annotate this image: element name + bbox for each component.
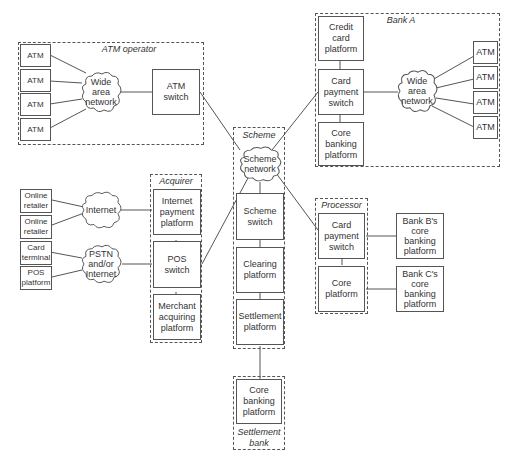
scheme-network-cloud[interactable]: Scheme network bbox=[236, 145, 284, 183]
pos-platform-box[interactable]: POS platform bbox=[20, 266, 52, 290]
core-banking-platform-box[interactable]: Core banking platform bbox=[318, 122, 364, 166]
group-label: ATM operator bbox=[79, 44, 179, 54]
cloud-label: Scheme network bbox=[243, 154, 276, 174]
settlement-core-banking-box[interactable]: Core banking platform bbox=[236, 379, 282, 424]
atm-switch-box[interactable]: ATM switch bbox=[152, 69, 200, 115]
card-payment-switch-box[interactable]: Card payment switch bbox=[318, 69, 364, 115]
cloud-label: Wide area network bbox=[401, 76, 433, 106]
wide-area-network-cloud[interactable]: Wide area network bbox=[78, 70, 124, 114]
merchant-acquiring-platform-box[interactable]: Merchant acquiring platform bbox=[153, 294, 201, 340]
bank-b-core-banking-box[interactable]: Bank B's core banking platform bbox=[396, 213, 444, 259]
atm-box[interactable]: ATM bbox=[20, 44, 51, 67]
atm-box[interactable]: ATM bbox=[20, 69, 51, 92]
group-label: Acquirer bbox=[151, 176, 201, 186]
bank-c-core-banking-box[interactable]: Bank C's core banking platform bbox=[396, 266, 444, 312]
atm-box[interactable]: ATM bbox=[473, 41, 498, 64]
group-label: Settlement bank bbox=[234, 427, 284, 449]
pstn-internet-cloud[interactable]: PSTN and/or Internet bbox=[78, 243, 124, 285]
cloud-label: Wide area network bbox=[85, 77, 117, 107]
cloud-label: PSTN and/or Internet bbox=[86, 249, 117, 279]
card-terminal-box[interactable]: Card terminal bbox=[20, 241, 52, 265]
cloud-label: Internet bbox=[86, 205, 117, 215]
group-label: Processor bbox=[316, 200, 367, 210]
group-label: Bank A bbox=[376, 15, 426, 25]
wide-area-network-cloud[interactable]: Wide area network bbox=[394, 68, 440, 114]
processor-card-switch-box[interactable]: Card payment switch bbox=[318, 213, 365, 259]
online-retailer-box[interactable]: Online retailer bbox=[20, 215, 52, 239]
settlement-platform-box[interactable]: Settlement platform bbox=[236, 299, 284, 345]
pos-switch-box[interactable]: POS switch bbox=[153, 241, 201, 288]
atm-box[interactable]: ATM bbox=[473, 116, 498, 139]
clearing-platform-box[interactable]: Clearing platform bbox=[236, 247, 284, 293]
atm-box[interactable]: ATM bbox=[20, 118, 51, 141]
group-label: Scheme bbox=[234, 130, 284, 140]
internet-payment-platform-box[interactable]: Internet payment platform bbox=[153, 189, 201, 235]
processor-core-platform-box[interactable]: Core platform bbox=[318, 266, 365, 312]
internet-cloud[interactable]: Internet bbox=[78, 190, 124, 230]
atm-box[interactable]: ATM bbox=[20, 93, 51, 116]
online-retailer-box[interactable]: Online retailer bbox=[20, 189, 52, 213]
credit-card-platform-box[interactable]: Credit card platform bbox=[318, 16, 364, 61]
atm-box[interactable]: ATM bbox=[473, 66, 498, 89]
atm-box[interactable]: ATM bbox=[473, 91, 498, 114]
scheme-switch-box[interactable]: Scheme switch bbox=[236, 193, 284, 240]
